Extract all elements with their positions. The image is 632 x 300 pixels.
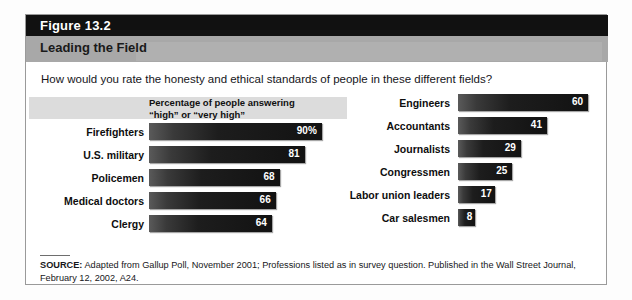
bar-row: Accountants 41 <box>332 117 608 140</box>
bar-car-salesmen: 8 <box>458 209 475 226</box>
bar-value: 66 <box>260 194 271 205</box>
bar-label: Journalists <box>332 143 450 155</box>
figure-container: Figure 13.2 Leading the Field How would … <box>25 14 607 285</box>
figure-question: How would you rate the honesty and ethic… <box>41 73 492 85</box>
bar-value: 60 <box>572 96 583 107</box>
figure-number: Figure 13.2 <box>40 18 111 33</box>
chart-column-left: Firefighters 90% U.S. military 81 Police… <box>26 123 326 238</box>
bar-label: Accountants <box>332 120 450 132</box>
figure-title-band: Leading the Field <box>26 36 608 62</box>
bar-value: 8 <box>467 211 473 222</box>
bar-medical-doctors: 66 <box>149 192 276 209</box>
bar-row: Firefighters 90% <box>26 123 326 146</box>
bar-journalists: 29 <box>458 140 521 157</box>
bar-row: Medical doctors 66 <box>26 192 326 215</box>
bar-value: 17 <box>481 188 492 199</box>
bar-value: 25 <box>496 165 507 176</box>
bar-clergy: 64 <box>149 215 272 232</box>
bar-label: Clergy <box>29 218 144 230</box>
bar-value: 64 <box>256 217 267 228</box>
bar-label: U.S. military <box>29 149 144 161</box>
bar-engineers: 60 <box>458 94 588 111</box>
bar-value: 68 <box>263 171 274 182</box>
bar-label: Policemen <box>29 172 144 184</box>
bar-firefighters: 90% <box>149 123 322 140</box>
bar-row: Clergy 64 <box>26 215 326 238</box>
figure-title: Leading the Field <box>40 40 147 55</box>
figure-screenshot: Figure 13.2 Leading the Field How would … <box>0 0 632 300</box>
bar-congressmen: 25 <box>458 163 512 180</box>
bar-labor-union-leaders: 17 <box>458 186 495 203</box>
legend-caption-line1: Percentage of people answering <box>149 97 349 109</box>
bar-accountants: 41 <box>458 117 547 134</box>
bar-label: Firefighters <box>29 126 144 138</box>
legend-caption-line2: “high” or “very high” <box>149 109 349 121</box>
bar-row: Car salesmen 8 <box>332 209 608 232</box>
bar-value: 41 <box>531 119 542 130</box>
bar-us-military: 81 <box>149 146 305 163</box>
bar-label: Engineers <box>332 97 450 109</box>
source-text: Adapted from Gallup Poll, November 2001;… <box>40 260 576 283</box>
bar-row: Labor union leaders 17 <box>332 186 608 209</box>
bar-label: Medical doctors <box>29 195 144 207</box>
bar-value: 90% <box>297 125 317 136</box>
figure-number-band: Figure 13.2 <box>26 15 608 36</box>
bar-value: 29 <box>505 142 516 153</box>
bar-row: U.S. military 81 <box>26 146 326 169</box>
source-label: SOURCE: <box>40 260 82 270</box>
legend-caption: Percentage of people answering “high” or… <box>149 97 349 120</box>
bar-value: 81 <box>288 148 299 159</box>
bar-row: Congressmen 25 <box>332 163 608 186</box>
source-note: SOURCE: Adapted from Gallup Poll, Novemb… <box>40 259 596 284</box>
bar-label: Car salesmen <box>332 212 450 224</box>
bar-label: Labor union leaders <box>332 189 450 201</box>
bar-row: Journalists 29 <box>332 140 608 163</box>
bar-label: Congressmen <box>332 166 450 178</box>
source-divider <box>40 255 70 256</box>
bar-row: Policemen 68 <box>26 169 326 192</box>
bar-row: Engineers 60 <box>332 94 608 117</box>
bar-policemen: 68 <box>149 169 280 186</box>
chart-column-right: Engineers 60 Accountants 41 Journalists … <box>332 94 608 232</box>
